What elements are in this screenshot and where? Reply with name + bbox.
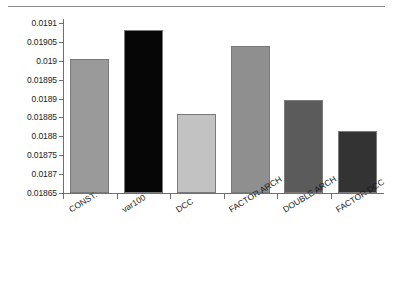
bar bbox=[70, 59, 109, 193]
x-axis-line bbox=[63, 193, 384, 194]
x-axis-tick-mark bbox=[331, 194, 332, 199]
y-axis-line bbox=[63, 19, 64, 194]
y-axis-tick-label: 0.01865 bbox=[2, 188, 57, 198]
x-axis-tick-mark bbox=[63, 194, 64, 199]
y-axis-tick-label: 0.0188 bbox=[2, 131, 57, 141]
y-axis-tick-label: 0.019 bbox=[2, 56, 57, 66]
x-axis-tick-mark bbox=[170, 194, 171, 199]
x-axis-tick-mark bbox=[224, 194, 225, 199]
x-axis-category-label: DCC bbox=[174, 196, 195, 214]
y-axis-tick-label: 0.01905 bbox=[2, 37, 57, 47]
bar bbox=[177, 114, 216, 193]
x-axis-tick-mark bbox=[277, 194, 278, 199]
bar bbox=[124, 30, 163, 193]
bar-chart: 0.01910.019050.0190.018950.01890.018850.… bbox=[0, 0, 393, 285]
y-axis-tick-label: 0.01895 bbox=[2, 75, 57, 85]
y-axis-tick-label: 0.0189 bbox=[2, 94, 57, 104]
y-axis-tick-label: 0.0191 bbox=[2, 18, 57, 28]
x-axis-tick-mark bbox=[117, 194, 118, 199]
y-axis-tick-label: 0.0187 bbox=[2, 169, 57, 179]
x-axis-category-label: var100 bbox=[120, 192, 147, 214]
y-axis-tick-label: 0.01875 bbox=[2, 150, 57, 160]
y-axis-tick-label: 0.01885 bbox=[2, 112, 57, 122]
bar bbox=[284, 100, 323, 193]
bar bbox=[231, 46, 270, 193]
